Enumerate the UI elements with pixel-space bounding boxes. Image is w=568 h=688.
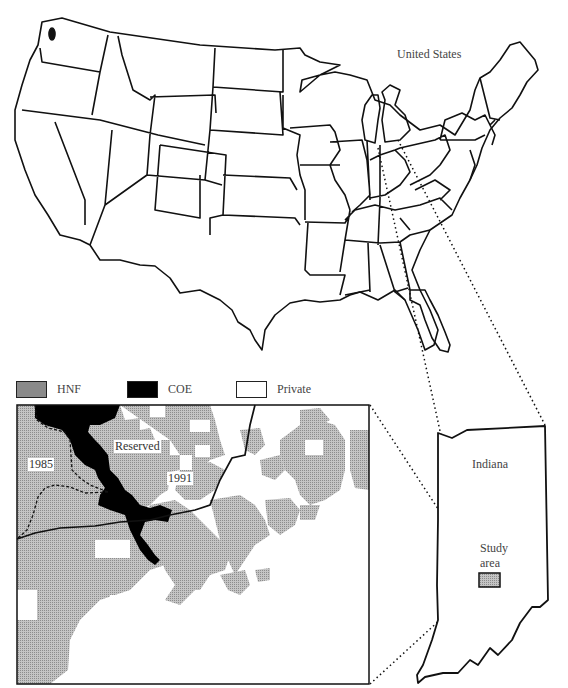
- michigan-outline: [362, 85, 410, 143]
- indiana-label: Indiana: [472, 457, 508, 472]
- hnf-swatch: [16, 381, 47, 398]
- study-area-label-line2: area: [480, 556, 508, 571]
- puget-sound: [49, 28, 55, 40]
- us-map-label: United States: [397, 47, 461, 62]
- legend-label-private: Private: [277, 382, 311, 397]
- florida-outline: [410, 290, 450, 352]
- legend-item-coe: COE: [127, 381, 192, 398]
- study-area-label: Study area: [480, 541, 508, 571]
- us-map: [15, 18, 538, 352]
- state-borders: [22, 35, 500, 300]
- us-outline: [15, 18, 538, 350]
- study-area-label-line1: Study: [480, 541, 508, 556]
- private-swatch: [236, 381, 267, 398]
- legend-item-hnf: HNF: [16, 381, 81, 398]
- legend-label-hnf: HNF: [57, 382, 81, 397]
- year-1991-label: 1991: [167, 472, 193, 485]
- legend-item-private: Private: [236, 381, 311, 398]
- reserved-label: Reserved: [114, 440, 161, 453]
- year-1985-label: 1985: [28, 458, 54, 471]
- detail-map: [17, 405, 369, 684]
- figure-canvas: [0, 0, 568, 688]
- study-area-marker: [479, 573, 500, 587]
- legend-label-coe: COE: [168, 382, 192, 397]
- coe-swatch: [127, 381, 158, 398]
